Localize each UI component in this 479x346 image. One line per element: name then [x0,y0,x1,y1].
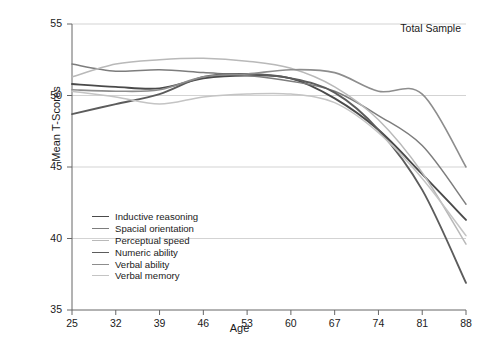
legend-item: Verbal ability [92,258,198,270]
y-tick-35: 35 [36,303,62,315]
x-tick-88: 88 [451,317,479,329]
legend-swatch-icon [92,252,109,253]
y-tick-50: 50 [36,89,62,101]
legend-swatch-icon [92,228,109,229]
x-tick-53: 53 [232,317,262,329]
chart-legend: Inductive reasoningSpacial orientationPe… [92,211,198,282]
chart-container: Mean T-Scores Age Total Sample 253239465… [0,0,479,346]
legend-item: Inductive reasoning [92,211,198,223]
x-tick-39: 39 [145,317,175,329]
legend-swatch-icon [92,240,109,241]
legend-label: Verbal memory [115,270,180,281]
legend-label: Numeric ability [115,247,178,258]
legend-item: Numeric ability [92,246,198,258]
x-tick-60: 60 [276,317,306,329]
legend-swatch-icon [92,264,109,265]
legend-item: Spacial orientation [92,223,198,235]
series-line-0 [72,75,466,220]
x-tick-25: 25 [57,317,87,329]
x-tick-81: 81 [407,317,437,329]
line-chart-plot [0,0,479,346]
legend-label: Verbal ability [115,259,169,270]
y-tick-55: 55 [36,17,62,29]
chart-annotation: Total Sample [400,22,461,34]
legend-label: Perceptual speed [115,235,190,246]
legend-item: Perceptual speed [92,235,198,247]
x-tick-46: 46 [188,317,218,329]
legend-label: Inductive reasoning [115,211,198,222]
y-tick-40: 40 [36,232,62,244]
x-tick-67: 67 [320,317,350,329]
legend-item: Verbal memory [92,270,198,282]
legend-label: Spacial orientation [115,223,194,234]
x-tick-32: 32 [101,317,131,329]
series-line-1 [72,64,466,204]
legend-swatch-icon [92,275,109,276]
legend-swatch-icon [92,216,109,217]
x-tick-74: 74 [363,317,393,329]
y-tick-45: 45 [36,160,62,172]
